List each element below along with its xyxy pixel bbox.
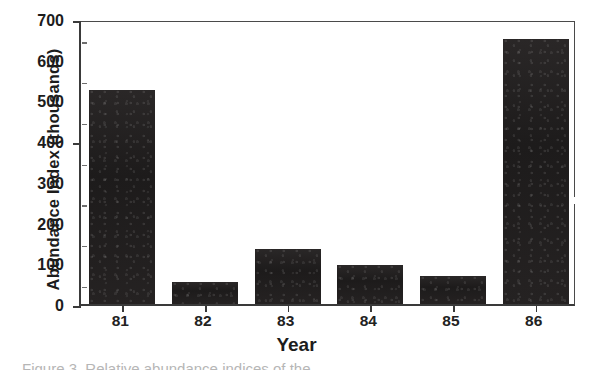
x-tick-label: 86 (492, 312, 575, 330)
y-tick-minor (82, 205, 87, 206)
y-tick-major (73, 143, 81, 145)
bar (255, 249, 321, 304)
x-tick-mark (536, 304, 538, 312)
y-tick-minor (82, 246, 87, 247)
x-tick-label: 81 (79, 312, 162, 330)
y-tick-minor (82, 165, 87, 166)
x-tick-mark (122, 304, 124, 312)
bar (172, 282, 238, 304)
plot-area (79, 21, 575, 306)
x-axis-title: Year (0, 334, 593, 356)
y-tick-minor (82, 124, 87, 125)
y-tick-label: 0 (18, 298, 64, 314)
y-tick-minor (82, 83, 87, 84)
x-tick-mark (288, 304, 290, 312)
y-tick-label: 700 (18, 13, 64, 29)
bar (337, 265, 403, 304)
y-tick-label: 200 (18, 217, 64, 233)
y-tick-label: 400 (18, 135, 64, 151)
x-tick-mark (370, 304, 372, 312)
figure-caption: Figure 3. Relative abundance indices of … (22, 360, 582, 370)
bar-chart-figure: Abundance Index (thousands) 010020030040… (0, 0, 593, 370)
bar (89, 90, 155, 304)
y-tick-label: 600 (18, 54, 64, 70)
y-axis-tick-labels: 0100200300400500600700 (12, 0, 64, 370)
frame-scan-artifact (572, 197, 575, 204)
x-tick-label: 82 (162, 312, 245, 330)
x-tick-label: 83 (244, 312, 327, 330)
y-tick-label: 300 (18, 176, 64, 192)
y-tick-label: 100 (18, 257, 64, 273)
x-tick-mark (453, 304, 455, 312)
y-tick-minor (82, 42, 87, 43)
y-tick-major (73, 21, 81, 23)
bar (503, 39, 569, 304)
y-tick-label: 500 (18, 94, 64, 110)
x-tick-label: 85 (410, 312, 493, 330)
bar (420, 276, 486, 305)
x-tick-label: 84 (327, 312, 410, 330)
y-tick-minor (82, 287, 87, 288)
y-tick-major (73, 306, 81, 308)
x-tick-mark (205, 304, 207, 312)
